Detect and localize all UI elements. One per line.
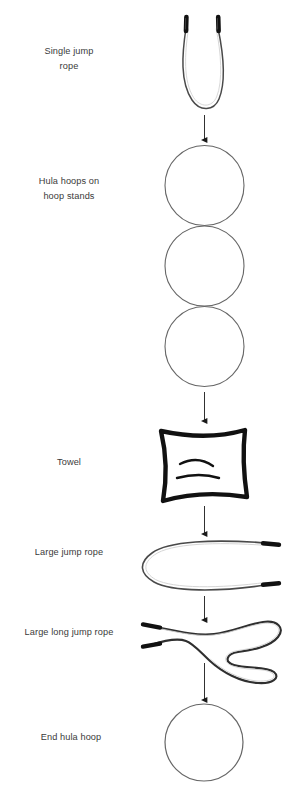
diagram-canvas: Single jump rope Hula hoops on hoop stan… — [0, 0, 297, 801]
hula-hoop-icon — [165, 704, 243, 781]
step-label-single-jump-rope: Single jump rope — [8, 44, 130, 74]
hula-hoop-stack-icon — [165, 146, 244, 387]
large-jump-rope-icon — [142, 541, 279, 590]
towel-icon — [161, 430, 247, 501]
hula-hoop-icon-1 — [165, 146, 244, 226]
step-label-end-hula-hoop: End hula hoop — [8, 730, 134, 745]
hula-hoop-icon-2 — [165, 226, 244, 306]
hula-hoop-icon-3 — [165, 307, 244, 387]
step-label-hula-hoops-on-hoop-stands: Hula hoops on hoop stands — [8, 174, 130, 204]
large-long-jump-rope-icon — [143, 622, 281, 683]
step-label-large-long-jump-rope: Large long jump rope — [2, 625, 136, 640]
step-label-towel: Towel — [8, 455, 130, 470]
diagram-artwork — [0, 0, 297, 801]
jump-rope-icon — [183, 17, 223, 109]
step-label-large-jump-rope: Large jump rope — [4, 545, 134, 560]
